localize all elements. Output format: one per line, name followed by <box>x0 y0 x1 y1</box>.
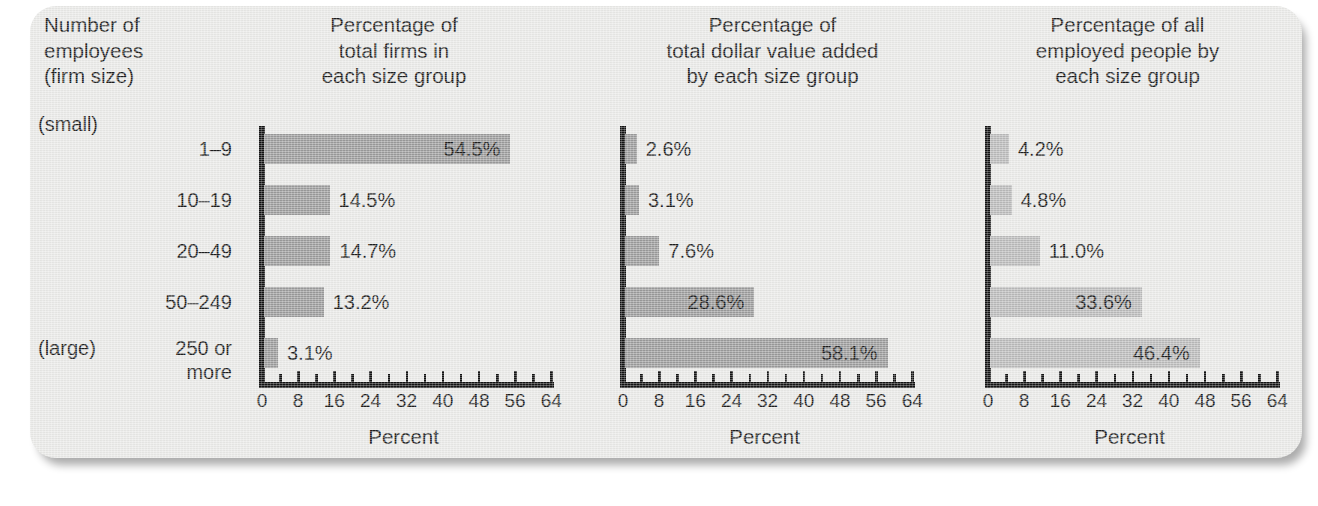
panel-title: Percentage of all employed people by eac… <box>955 12 1300 89</box>
x-axis-minor-tick <box>1222 374 1225 382</box>
x-axis-minor-tick <box>1077 374 1080 382</box>
x-axis-minor-tick <box>315 374 318 382</box>
bar-value-label: 4.2% <box>1018 134 1064 164</box>
x-axis-major-tick <box>550 371 553 382</box>
plot-area: 2.6%3.1%7.6%28.6%58.1% <box>620 126 919 382</box>
x-axis-minor-tick <box>424 374 427 382</box>
x-axis-major-tick <box>875 371 878 382</box>
x-axis-major-tick <box>1059 371 1062 382</box>
x-axis-major-tick <box>658 371 661 382</box>
x-tick-label: 16 <box>685 390 706 412</box>
bar-value-label: 3.1% <box>287 338 333 368</box>
x-axis-minor-tick <box>893 374 896 382</box>
x-axis-major-tick <box>694 371 697 382</box>
bar <box>264 185 330 215</box>
category-label: 20–49 <box>90 239 232 263</box>
x-tick-label: 64 <box>1267 390 1288 412</box>
x-axis-minor-tick <box>1258 374 1261 382</box>
bar <box>264 236 330 266</box>
chart-stage: Number of employees (firm size) 1–910–19… <box>30 6 1302 458</box>
panel-title: Percentage of total firms in each size g… <box>229 12 559 89</box>
chart-panel: Percentage of all employed people by eac… <box>955 6 1300 458</box>
x-axis-minor-tick <box>857 374 860 382</box>
x-tick-label: 48 <box>829 390 850 412</box>
x-axis-major-tick <box>839 371 842 382</box>
bar <box>625 185 639 215</box>
bar <box>625 236 659 266</box>
x-tick-label: 0 <box>983 390 994 412</box>
x-axis-minor-tick <box>712 374 715 382</box>
x-axis-major-tick <box>1168 371 1171 382</box>
x-axis-minor-tick <box>388 374 391 382</box>
x-tick-label: 32 <box>396 390 417 412</box>
x-tick-label: 40 <box>432 390 453 412</box>
x-axis-major-tick <box>297 371 300 382</box>
bar-value-label: 2.6% <box>646 134 692 164</box>
category-label: 50–249 <box>90 290 232 314</box>
x-axis-line <box>620 382 915 388</box>
x-axis-major-tick <box>911 371 914 382</box>
x-axis-title: Percent <box>229 425 578 449</box>
bar <box>625 134 637 164</box>
large-size-note: (large) <box>38 336 134 360</box>
bar-value-label: 7.6% <box>668 236 714 266</box>
x-axis-minor-tick <box>785 374 788 382</box>
bar <box>990 236 1040 266</box>
x-tick-label: 56 <box>505 390 526 412</box>
x-axis-minor-tick <box>496 374 499 382</box>
x-axis-minor-tick <box>749 374 752 382</box>
bar-value-label: 28.6% <box>688 287 745 317</box>
chart-panel: Percentage of total firms in each size g… <box>229 6 559 458</box>
x-axis-major-tick <box>1132 371 1135 382</box>
x-tick-label: 16 <box>1050 390 1071 412</box>
x-axis-minor-tick <box>279 374 282 382</box>
chart-figure-card: Number of employees (firm size) 1–910–19… <box>30 6 1302 458</box>
x-axis-line <box>985 382 1280 388</box>
x-axis-major-tick <box>333 371 336 382</box>
x-axis-major-tick <box>1276 371 1279 382</box>
x-axis-minor-tick <box>821 374 824 382</box>
x-axis-minor-tick <box>351 374 354 382</box>
bar-value-label: 3.1% <box>648 185 694 215</box>
x-tick-label: 48 <box>1194 390 1215 412</box>
x-axis-major-tick <box>1240 371 1243 382</box>
x-tick-label: 0 <box>618 390 629 412</box>
x-tick-label: 24 <box>1086 390 1107 412</box>
x-axis-major-tick <box>369 371 372 382</box>
x-axis-major-tick <box>987 371 990 382</box>
x-axis-minor-tick <box>1186 374 1189 382</box>
panel-title: Percentage of total dollar value added b… <box>590 12 955 89</box>
x-axis-minor-tick <box>460 374 463 382</box>
row-header-title: Number of employees (firm size) <box>44 12 244 89</box>
bar <box>264 287 324 317</box>
x-tick-label: 8 <box>293 390 304 412</box>
x-axis-minor-tick <box>640 374 643 382</box>
x-tick-label: 32 <box>1122 390 1143 412</box>
x-axis-major-tick <box>1095 371 1098 382</box>
x-axis-major-tick <box>1023 371 1026 382</box>
bar-value-label: 11.0% <box>1049 236 1104 266</box>
small-size-note: (small) <box>38 112 134 136</box>
x-axis-minor-tick <box>532 374 535 382</box>
bar-value-label: 14.7% <box>339 236 396 266</box>
bar-value-label: 46.4% <box>1133 338 1190 368</box>
x-tick-label: 8 <box>1019 390 1030 412</box>
x-axis-minor-tick <box>1150 374 1153 382</box>
x-axis-major-tick <box>767 371 770 382</box>
x-axis-minor-tick <box>1041 374 1044 382</box>
x-axis-title: Percent <box>590 425 939 449</box>
x-axis-minor-tick <box>676 374 679 382</box>
x-tick-label: 56 <box>866 390 887 412</box>
x-axis-minor-tick <box>1114 374 1117 382</box>
bar-value-label: 54.5% <box>444 134 501 164</box>
bar <box>264 338 278 368</box>
x-tick-label: 48 <box>468 390 489 412</box>
x-tick-label: 24 <box>721 390 742 412</box>
plot-area: 4.2%4.8%11.0%33.6%46.4% <box>985 126 1284 382</box>
x-tick-label: 40 <box>793 390 814 412</box>
bar-value-label: 4.8% <box>1021 185 1067 215</box>
bar <box>990 185 1012 215</box>
x-tick-label: 64 <box>902 390 923 412</box>
x-axis-major-tick <box>622 371 625 382</box>
x-axis-major-tick <box>514 371 517 382</box>
